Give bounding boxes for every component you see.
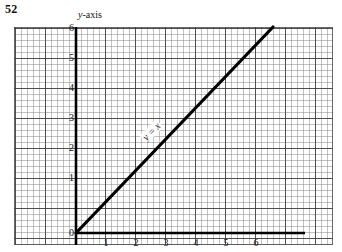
y-tick-label-0-origin: 0 [60, 228, 74, 238]
y-tick-label-3: 3 [60, 113, 74, 123]
y-tick-label-4: 4 [60, 83, 74, 93]
y-axis-label: y-axis [78, 9, 102, 20]
x-tick-label-4: 4 [189, 238, 203, 248]
y-tick-label-5: 5 [60, 53, 74, 63]
x-tick-label-5: 5 [219, 238, 233, 248]
x-tick-label-6: 6 [249, 238, 263, 248]
x-tick-label-1: 1 [99, 238, 113, 248]
problem-number: 52 [5, 2, 17, 17]
y-axis-label-rest: -axis [82, 9, 101, 20]
y-tick-label-6: 6 [60, 23, 74, 33]
x-tick-label-3: 3 [159, 238, 173, 248]
y-tick-label-2: 2 [60, 143, 74, 153]
y-tick-label-1: 1 [60, 173, 74, 183]
x-tick-label-2: 2 [129, 238, 143, 248]
